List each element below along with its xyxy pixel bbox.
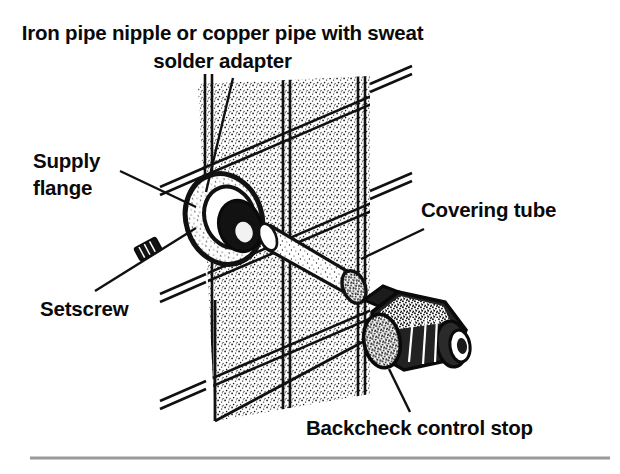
supply-flange-callout-label: Supply flange: [33, 148, 100, 201]
leader-covering-tube: [361, 229, 424, 259]
backcheck-control-stop-part: [360, 286, 473, 371]
leader-backcheck: [389, 369, 410, 412]
covering-tube-callout-label: Covering tube: [421, 198, 556, 222]
supply-flange-label-line1: Supply: [33, 148, 100, 175]
setscrew-callout-label: Setscrew: [40, 297, 128, 321]
supply-flange-label-line2: flange: [33, 175, 100, 202]
backcheck-callout-label: Backcheck control stop: [306, 416, 533, 440]
figure-container: Iron pipe nipple or copper pipe with swe…: [0, 0, 620, 474]
leader-setscrew: [95, 228, 196, 291]
title-callout-label: Iron pipe nipple or copper pipe with swe…: [0, 19, 445, 76]
